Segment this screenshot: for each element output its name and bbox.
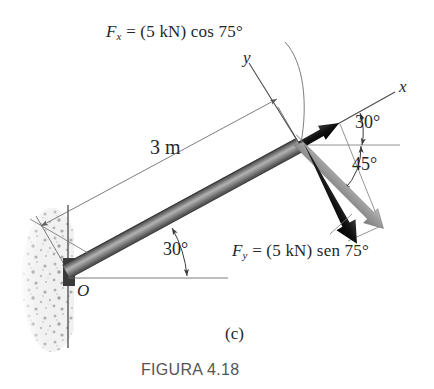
- vector-resultant: [286, 131, 391, 236]
- figure-caption: FIGURA 4.18: [141, 361, 239, 379]
- mechanics-diagram: [0, 0, 434, 389]
- dimension-line: [41, 99, 277, 226]
- x-axis-angle-label: 30°: [355, 112, 380, 133]
- y-axis-label: y: [243, 48, 251, 68]
- fx-expression: = (5 kN) cos 75°: [122, 22, 243, 41]
- length-dimension-label: 3 m: [150, 136, 181, 159]
- beam: [62, 138, 302, 286]
- fx-leader-line: [285, 42, 304, 143]
- y-axis-line: [249, 63, 300, 145]
- part-label: (c): [225, 324, 244, 344]
- fx-label: Fx = (5 kN) cos 75°: [106, 22, 243, 42]
- origin-label: O: [77, 281, 89, 301]
- vector-resultant-shape: [286, 131, 391, 236]
- resultant-angle-label: 45°: [352, 154, 377, 175]
- fx-symbol: F: [106, 22, 117, 41]
- fy-expression: = (5 kN) sen 75°: [248, 241, 369, 260]
- fx-leader-curve: [285, 42, 304, 143]
- x-axis-label: x: [399, 77, 407, 97]
- fy-label: Fy = (5 kN) sen 75°: [232, 241, 369, 261]
- figure-container: Fx = (5 kN) cos 75° Fy = (5 kN) sen 75° …: [0, 0, 434, 389]
- beam-angle-label: 30°: [163, 239, 188, 260]
- fy-symbol: F: [232, 241, 243, 260]
